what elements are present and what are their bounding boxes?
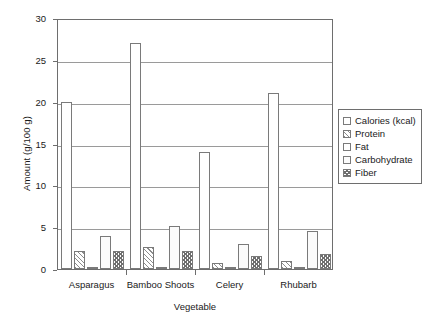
bar-group-asparagus: [58, 20, 127, 269]
x-axis-title: Vegetable: [50, 301, 340, 312]
plot-area: [57, 19, 333, 270]
legend-swatch-calories: [343, 117, 351, 125]
x-axis-tick-mark: [195, 270, 196, 275]
legend-swatch-fat: [343, 143, 351, 151]
bar-rhubarb-carbohydrate[interactable]: [307, 231, 319, 269]
legend-item-carbohydrate[interactable]: Carbohydrate: [343, 153, 416, 166]
bar-celery-fiber[interactable]: [251, 256, 263, 269]
bar-asparagus-protein[interactable]: [74, 251, 86, 269]
bar-asparagus-calories-kcal[interactable]: [61, 102, 73, 269]
bar-asparagus-fiber[interactable]: [113, 251, 125, 269]
y-axis-tick-label: 0: [0, 265, 46, 275]
y-axis-tick-label: 20: [0, 98, 46, 108]
y-axis-tick-label: 25: [0, 56, 46, 66]
bar-bamboo-shoots-fat[interactable]: [156, 267, 168, 270]
bar-bamboo-shoots-protein[interactable]: [143, 247, 155, 269]
bar-rhubarb-fat[interactable]: [294, 267, 306, 269]
bar-bamboo-shoots-calories-kcal[interactable]: [130, 43, 142, 269]
x-axis-tick-label-bamboo-shoots: Bamboo Shoots: [127, 279, 195, 290]
y-axis-tick-label: 15: [0, 140, 46, 150]
legend-item-calories[interactable]: Calories (kcal): [343, 114, 416, 127]
bar-celery-carbohydrate[interactable]: [238, 244, 250, 269]
bar-group-rhubarb: [265, 20, 334, 269]
bar-bamboo-shoots-carbohydrate[interactable]: [169, 226, 181, 270]
y-axis-tick-label: 30: [0, 14, 46, 24]
legend-item-fiber[interactable]: Fiber: [343, 166, 416, 179]
x-axis-tick-mark: [264, 270, 265, 275]
y-axis-tick-label: 10: [0, 181, 46, 191]
x-axis-tick-label-rhubarb: Rhubarb: [280, 279, 316, 290]
x-axis-tick-mark: [126, 270, 127, 275]
x-axis-tick-label-asparagus: Asparagus: [69, 279, 114, 290]
legend-label-protein: Protein: [355, 129, 385, 139]
bar-rhubarb-calories-kcal[interactable]: [268, 93, 280, 269]
legend-swatch-protein: [343, 130, 351, 138]
legend-label-fat: Fat: [355, 142, 369, 152]
bar-group-celery: [196, 20, 265, 269]
bar-celery-protein[interactable]: [212, 263, 224, 269]
bar-bamboo-shoots-fiber[interactable]: [182, 251, 194, 269]
bar-rhubarb-fiber[interactable]: [320, 254, 332, 269]
legend-label-calories: Calories (kcal): [355, 116, 416, 126]
legend-label-carbohydrate: Carbohydrate: [355, 155, 413, 165]
bar-asparagus-fat[interactable]: [87, 267, 99, 269]
x-axis-tick-label-celery: Celery: [216, 279, 243, 290]
legend-swatch-carbohydrate: [343, 156, 351, 164]
bar-rhubarb-protein[interactable]: [281, 261, 293, 269]
legend-item-fat[interactable]: Fat: [343, 140, 416, 153]
y-axis-tick-mark: [53, 270, 57, 271]
legend: Calories (kcal)ProteinFatCarbohydrateFib…: [338, 109, 422, 184]
bar-group-bamboo-shoots: [127, 20, 196, 269]
bar-asparagus-carbohydrate[interactable]: [100, 236, 112, 269]
bar-chart: Amount (g/100 g) 051015202530 AsparagusB…: [0, 0, 434, 322]
legend-swatch-fiber: [343, 169, 351, 177]
bar-celery-calories-kcal[interactable]: [199, 152, 211, 269]
y-axis-tick-label: 5: [0, 223, 46, 233]
bar-celery-fat[interactable]: [225, 267, 237, 269]
legend-label-fiber: Fiber: [355, 168, 377, 178]
legend-item-protein[interactable]: Protein: [343, 127, 416, 140]
